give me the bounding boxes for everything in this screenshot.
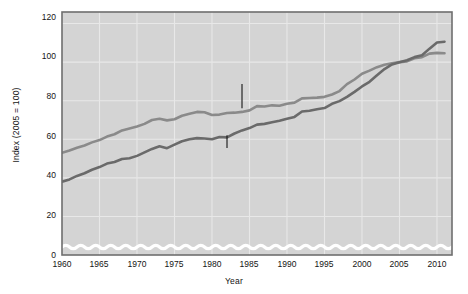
chart-figure: Index (2005 = 100) Year 120 100 80 60 40… bbox=[0, 0, 468, 294]
plot-canvas bbox=[0, 0, 468, 294]
plot-background bbox=[62, 12, 452, 255]
